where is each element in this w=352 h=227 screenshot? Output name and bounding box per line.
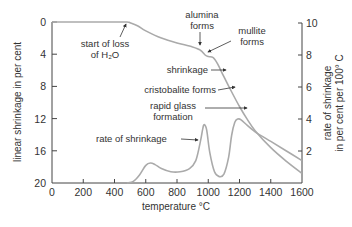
annotation-shrinkage: shrinkage <box>167 64 226 75</box>
y-right-tick-label: 2 <box>306 145 312 157</box>
annotation-water-loss: start of loss of H₂O <box>81 24 130 60</box>
annotation-text: mullite <box>238 25 265 36</box>
x-tick-label: 600 <box>137 186 155 198</box>
annotation-text: of H₂O <box>91 49 120 60</box>
y-left-tick-label: 0 <box>40 16 46 28</box>
annotation-text: alumina <box>185 9 219 20</box>
x-tick-label: 1600 <box>290 186 314 198</box>
arrow-icon <box>181 139 198 140</box>
x-tick-label: 200 <box>74 186 92 198</box>
annotation-rate: rate of shrinkage <box>96 133 198 144</box>
annotation-alumina: alumina forms <box>185 9 219 45</box>
right-axis-title-line2: in per cent per 100° C <box>334 54 345 151</box>
annotation-text: start of loss <box>81 38 130 49</box>
y-left-tick-label: 4 <box>40 48 46 60</box>
annotation-mullite: mullite forms <box>208 25 266 52</box>
y-left-tick-label: 12 <box>34 113 46 125</box>
rate-of-shrinkage-curve <box>127 119 302 183</box>
x-axis-title: temperature °C <box>142 201 210 212</box>
annotation-text: shrinkage <box>167 64 208 75</box>
annotation-text: forms <box>190 20 214 31</box>
shrinkage-chart: 02004006008001000120014001600 048121620 … <box>0 0 352 227</box>
x-tick-label: 1000 <box>197 186 221 198</box>
y-right-tick-label: 4 <box>306 113 312 125</box>
annotation-text: cristobalite forms <box>144 84 216 95</box>
x-axis-ticks: 02004006008001000120014001600 <box>49 179 314 198</box>
x-tick-label: 1200 <box>228 186 252 198</box>
arrow-icon <box>218 87 235 90</box>
y-right-tick-label: 6 <box>306 81 312 93</box>
right-axis-title-line1: rate of shrinkage <box>322 65 333 140</box>
annotation-text: forms <box>240 36 264 47</box>
right-axis-ticks: 246810 <box>298 17 318 157</box>
y-right-tick-label: 10 <box>306 17 318 29</box>
arrow-icon <box>120 24 126 37</box>
x-tick-label: 400 <box>106 186 124 198</box>
y-left-tick-label: 8 <box>40 80 46 92</box>
y-left-tick-label: 16 <box>34 145 46 157</box>
x-tick-label: 0 <box>49 186 55 198</box>
annotation-text: rate of shrinkage <box>96 133 167 144</box>
x-tick-label: 800 <box>168 186 186 198</box>
left-axis-title: linear shrinkage in per cent <box>12 42 23 162</box>
arrow-icon <box>208 41 231 52</box>
x-tick-label: 1400 <box>259 186 283 198</box>
annotation-glass: rapid glass formation <box>150 100 247 122</box>
y-left-tick-label: 20 <box>34 177 46 189</box>
annotation-text: formation <box>153 111 193 122</box>
annotation-text: rapid glass <box>150 100 196 111</box>
left-axis-ticks: 048121620 <box>34 16 57 189</box>
y-right-tick-label: 8 <box>306 49 312 61</box>
annotation-cristobalite: cristobalite forms <box>144 84 235 95</box>
